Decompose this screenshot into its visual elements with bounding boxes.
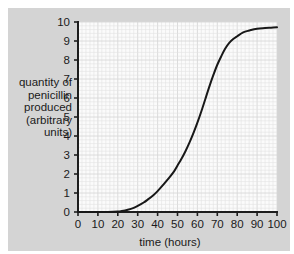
x-tick-label: 100: [267, 218, 286, 230]
y-tick-label: 10: [57, 16, 70, 28]
y-tick-label: 3: [64, 149, 70, 161]
y-axis-title-line: produced: [24, 101, 72, 113]
x-tick-label: 40: [151, 218, 164, 230]
y-tick-label: 1: [64, 187, 70, 199]
y-axis-title-line: penicillin: [28, 89, 72, 101]
x-tick-label: 60: [191, 218, 204, 230]
x-tick-label: 70: [211, 218, 224, 230]
y-axis-title-line: quantity of: [19, 76, 73, 88]
y-tick-label: 0: [64, 206, 70, 218]
y-tick-label: 8: [64, 54, 70, 66]
x-tick-label: 90: [251, 218, 264, 230]
x-tick-label: 10: [92, 218, 105, 230]
y-tick-label: 9: [64, 35, 70, 47]
chart-svg: 0102030405060708090100 012345678910 quan…: [0, 0, 294, 254]
x-axis-title: time (hours): [139, 236, 201, 248]
y-axis-title-line: units): [44, 126, 72, 138]
x-tick-label: 0: [75, 218, 81, 230]
x-tick-label: 30: [131, 218, 144, 230]
y-axis-title: quantity ofpenicillinproduced(arbitraryu…: [19, 76, 73, 138]
x-tick-label: 80: [231, 218, 244, 230]
x-tick-label: 50: [171, 218, 184, 230]
y-tick-label: 2: [64, 168, 70, 180]
y-axis-title-line: (arbitrary: [26, 114, 72, 126]
x-tick-label: 20: [111, 218, 124, 230]
x-tick-labels: 0102030405060708090100: [75, 218, 287, 230]
penicillin-production-chart: 0102030405060708090100 012345678910 quan…: [0, 0, 294, 254]
